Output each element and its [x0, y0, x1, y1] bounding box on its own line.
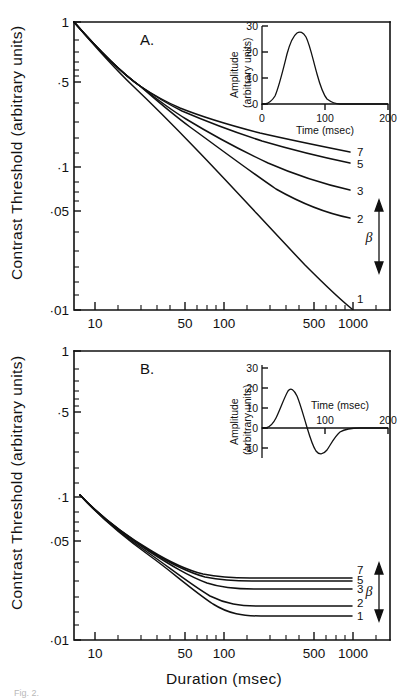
panel-a-beta-symbol: β [365, 230, 373, 245]
panel-b-inset-xtick-100: 100 [316, 414, 334, 426]
panel-b-curves [80, 495, 352, 616]
panel-b-inset-y-axis-title-line1: Amplitude [228, 398, 240, 445]
panel-a-xtick-100: 100 [213, 316, 236, 331]
panel-b-inset-xtick-200: 200 [379, 414, 397, 426]
panel-b-inset-y-axis-title-line2: (arbitrary units) [241, 384, 253, 455]
panel-a-inset-xtick-0: 0 [259, 112, 265, 124]
panel-a-curves [74, 22, 352, 309]
panel-b-label: B. [140, 360, 154, 377]
panel-a-curve-label-2: 2 [357, 213, 363, 225]
panel-b-beta-arrow [375, 563, 383, 621]
panel-b-xtick-50: 50 [177, 646, 192, 661]
panel-a-beta-arrow [375, 200, 383, 273]
panel-b-beta-symbol: β [365, 584, 373, 599]
panel-a-inset-curve [262, 32, 388, 104]
panel-a: 1 ·5 ·1 ·05 ·01 10 [8, 15, 397, 331]
panel-b: 1 ·5 ·1 ·05 ·01 10 50 [8, 344, 397, 687]
panel-a-ytick-2: ·5 [57, 75, 69, 90]
panel-a-label: A. [140, 31, 154, 48]
panel-b-ytick-1: 1 [61, 344, 69, 359]
panel-b-inset-ytick-30: 30 [246, 362, 258, 374]
panel-a-curve-label-3: 3 [357, 185, 363, 197]
panel-a-inset-xtick-100: 100 [316, 112, 334, 124]
panel-b-ytick-5: ·01 [49, 633, 69, 648]
panel-a-x-ticks [95, 302, 376, 310]
panel-b-axes [74, 351, 390, 640]
panel-a-ytick-1: 1 [61, 15, 69, 30]
panel-a-inset-xtick-200: 200 [379, 112, 397, 124]
panel-a-inset-ytick-0: 0 [252, 98, 258, 110]
figure-container: 1 ·5 ·1 ·05 ·01 10 [0, 0, 411, 698]
panel-b-ytick-4: ·05 [49, 534, 69, 549]
panel-b-xtick-500: 500 [303, 646, 326, 661]
panel-b-inset-ytick-0: 0 [252, 422, 258, 434]
panel-b-x-ticks [95, 632, 376, 640]
figure-caption-fragment: Fig. 2. [14, 688, 39, 698]
panel-a-y-ticks [74, 22, 81, 310]
panel-b-xtick-10: 10 [87, 646, 102, 661]
panel-a-inset-x-axis-title: Time (msec) [296, 124, 354, 136]
panel-a-xtick-10: 10 [87, 316, 102, 331]
panel-a-curve-label-1: 1 [357, 293, 363, 305]
panel-b-curve-label-3: 3 [357, 583, 363, 595]
panel-a-y-axis-title: Contrast Threshold (arbitrary units) [8, 26, 25, 280]
panel-b-y-axis-title: Contrast Threshold (arbitrary units) [8, 356, 25, 610]
panel-b-curve-label-2: 2 [357, 597, 363, 609]
panel-a-xtick-1000: 1000 [338, 316, 368, 331]
panel-b-ytick-3: ·1 [57, 490, 69, 505]
panel-b-curve-label-1: 1 [357, 610, 363, 622]
panel-a-ytick-5: ·01 [49, 303, 69, 318]
panel-a-xtick-50: 50 [177, 316, 192, 331]
panel-a-ytick-3: ·1 [57, 160, 69, 175]
panel-b-ytick-2: ·5 [57, 405, 69, 420]
panel-b-curve-7 [80, 495, 352, 578]
panel-b-xtick-1000: 1000 [338, 646, 368, 661]
panel-a-inset-ytick-30: 30 [246, 20, 258, 32]
panel-a-inset-y-axis-title-line1: Amplitude [228, 51, 240, 98]
panel-b-curve-5 [80, 495, 352, 581]
panel-b-curve-3 [80, 495, 352, 589]
figure-svg: 1 ·5 ·1 ·05 ·01 10 [0, 0, 411, 698]
panel-a-curve-label-5: 5 [357, 158, 363, 170]
panel-a-inset: 30 20 10 0 0 100 200 Time (msec) Amplitu… [228, 20, 397, 136]
panel-a-inset-axes [262, 26, 388, 104]
x-axis-title: Duration (msec) [166, 670, 282, 687]
panel-b-inset-x-axis-title: Time (msec) [311, 399, 369, 411]
panel-a-curve-label-7: 7 [357, 146, 363, 158]
panel-a-inset-y-axis-title-line2: (arbitrary units) [241, 37, 253, 108]
panel-a-xtick-500: 500 [303, 316, 326, 331]
panel-b-curve-1 [80, 495, 352, 616]
panel-a-ytick-4: ·05 [49, 204, 69, 219]
panel-b-xtick-100: 100 [213, 646, 236, 661]
panel-b-inset: 30 20 10 0 -10 100 200 Time (msec) Ampli… [228, 362, 397, 458]
